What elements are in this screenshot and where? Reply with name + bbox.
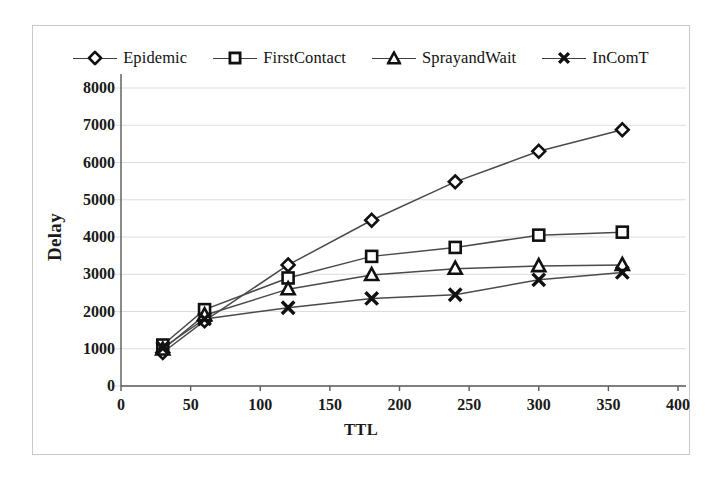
data-point-firstcontact — [450, 242, 461, 253]
x-tick-label: 100 — [248, 396, 272, 414]
data-point-sprayandwait — [532, 259, 545, 271]
x-axis-ticks: 050100150200250300350400 — [33, 392, 689, 416]
x-tick-label: 250 — [457, 396, 481, 414]
x-tick-label: 150 — [318, 396, 342, 414]
x-tick-label: 50 — [183, 396, 199, 414]
y-axis-ticks: 010002000300040005000600070008000 — [61, 26, 121, 454]
y-tick-label: 7000 — [61, 116, 121, 134]
plot-area: Delay TTL 010002000300040005000600070008… — [33, 26, 689, 454]
y-tick-label: 8000 — [61, 79, 121, 97]
x-axis-label: TTL — [33, 420, 689, 440]
data-point-firstcontact — [533, 230, 544, 241]
x-tick-label: 400 — [666, 396, 690, 414]
chart-figure: Epidemic FirstContact — [32, 25, 690, 455]
y-tick-label: 5000 — [61, 191, 121, 209]
data-point-sprayandwait — [365, 268, 378, 280]
x-tick-label: 350 — [596, 396, 620, 414]
y-tick-label: 4000 — [61, 228, 121, 246]
y-tick-label: 2000 — [61, 303, 121, 321]
data-point-sprayandwait — [449, 262, 462, 274]
y-tick-label: 6000 — [61, 154, 121, 172]
data-point-epidemic — [365, 214, 378, 227]
x-tick-label: 200 — [388, 396, 412, 414]
data-point-epidemic — [282, 259, 295, 272]
data-point-epidemic — [532, 145, 545, 158]
x-tick-label: 300 — [527, 396, 551, 414]
y-tick-label: 1000 — [61, 340, 121, 358]
data-point-epidemic — [449, 175, 462, 188]
data-point-firstcontact — [366, 251, 377, 262]
x-tick-label: 0 — [117, 396, 125, 414]
y-tick-label: 3000 — [61, 265, 121, 283]
data-point-firstcontact — [617, 227, 628, 238]
